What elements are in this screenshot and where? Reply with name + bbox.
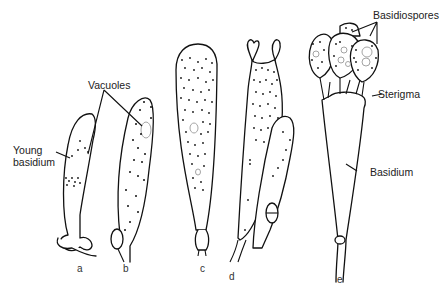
stage-a-drawing [57, 114, 96, 256]
label-basidiospores: Basidiospores [373, 9, 439, 21]
basidium-diagram: Vacuoles Young basidium Basidiospores St… [0, 0, 448, 293]
stage-c-drawing [176, 44, 217, 256]
diagram-drawing [0, 0, 448, 293]
label-young-basidium-line1: Young [13, 144, 42, 156]
stage-b-drawing [111, 98, 153, 262]
stage-label-d: d [229, 271, 235, 282]
stage-label-c: c [200, 263, 205, 274]
stage-label-b: b [123, 263, 129, 274]
stage-label-a: a [77, 263, 83, 274]
stage-d-drawing [230, 40, 294, 262]
label-sterigma: Sterigma [378, 88, 420, 100]
label-basidium: Basidium [370, 166, 413, 178]
stage-label-e: e [337, 274, 343, 285]
stage-e-drawing [309, 23, 378, 282]
label-vacuoles: Vacuoles [88, 79, 130, 91]
label-young-basidium-line2: basidium [13, 156, 55, 168]
